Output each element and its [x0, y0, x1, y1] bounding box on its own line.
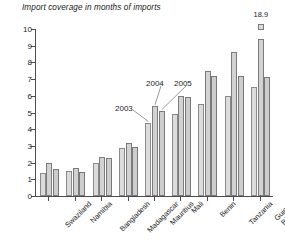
bar-2004 — [231, 52, 237, 196]
year-annotation-2005: 2005 — [174, 79, 192, 88]
bar-group — [40, 29, 59, 196]
chart-title: Import coverage in months of imports — [22, 3, 161, 12]
bar-2005 — [185, 97, 191, 196]
year-annotation-2003: 2003 — [115, 104, 133, 113]
bar-2004 — [178, 96, 184, 196]
plot-area: 012345678910 — [35, 29, 273, 196]
bar-2004 — [46, 163, 52, 196]
y-tick-label: 3 — [28, 141, 32, 150]
bar-group — [172, 29, 191, 196]
x-axis-label: Swaziland — [64, 200, 94, 230]
year-annotation-2004: 2004 — [146, 79, 164, 88]
y-tick-label: 2 — [28, 158, 32, 167]
bar-value-label: 18.9 — [253, 10, 268, 19]
bar-2003 — [145, 123, 151, 196]
bar-2005 — [238, 76, 244, 196]
x-tick-mark — [233, 196, 234, 201]
bar-2003 — [93, 163, 99, 196]
x-tick-mark — [207, 196, 208, 201]
bar-2005 — [132, 147, 138, 196]
bar-group — [198, 29, 217, 196]
bar-group — [66, 29, 85, 196]
x-axis-label: Benin — [218, 200, 237, 219]
bar-group — [145, 29, 164, 196]
bar-2004 — [205, 71, 211, 196]
bar-2004 — [152, 106, 158, 196]
bar-truncation-cap — [258, 24, 264, 30]
bar-2003 — [251, 87, 257, 196]
y-tick-label: 5 — [28, 108, 32, 117]
x-axis-label: Tanzania — [248, 200, 275, 227]
bar-2004 — [73, 168, 79, 196]
x-tick-mark — [154, 196, 155, 201]
x-tick-mark — [101, 196, 102, 201]
bar-group — [93, 29, 112, 196]
bar-group — [225, 29, 244, 196]
x-axis-label: Guinea Bissau — [273, 200, 285, 228]
y-tick-label: 6 — [28, 91, 32, 100]
bar-2003 — [66, 171, 72, 196]
y-tick-label: 9 — [28, 41, 32, 50]
y-tick-label: 0 — [28, 192, 32, 201]
bar-2005 — [264, 77, 270, 196]
y-tick-label: 1 — [28, 175, 32, 184]
y-tick-label: 4 — [28, 125, 32, 134]
bar-2003 — [172, 114, 178, 196]
y-tick-label: 7 — [28, 75, 32, 84]
bar-2005 — [79, 172, 85, 196]
bar-2005 — [211, 76, 217, 196]
bar-2003 — [198, 104, 204, 196]
bar-2003 — [225, 96, 231, 196]
bar-2004 — [126, 143, 132, 196]
bar-group — [251, 29, 270, 196]
x-tick-mark — [128, 196, 129, 201]
bar-2004 — [258, 39, 264, 196]
y-tick-label: 8 — [28, 58, 32, 67]
bar-2005 — [159, 111, 165, 196]
chart-container: Import coverage in months of imports 012… — [0, 0, 285, 252]
bar-2005 — [53, 169, 59, 196]
x-tick-mark — [180, 196, 181, 201]
y-tick-label: 10 — [23, 25, 32, 34]
bar-2005 — [106, 158, 112, 196]
x-tick-mark — [75, 196, 76, 201]
x-tick-mark — [260, 196, 261, 201]
x-tick-mark — [48, 196, 49, 201]
bar-2004 — [99, 157, 105, 196]
bar-2003 — [119, 148, 125, 196]
bar-2003 — [40, 173, 46, 196]
